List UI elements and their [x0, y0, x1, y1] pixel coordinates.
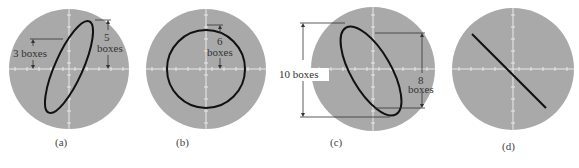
- caption-b: (b): [176, 136, 189, 149]
- lissajous-figure: 3 boxes 5 boxes (a) 6 boxes (b): [0, 0, 579, 168]
- panel-b: 6 boxes (b): [146, 9, 266, 149]
- label-boxes: boxes: [97, 42, 123, 54]
- panel-d: (d): [452, 8, 574, 153]
- caption-c: (c): [330, 136, 343, 149]
- label-boxes: boxes: [408, 83, 434, 95]
- label-10-boxes: 10 boxes: [279, 68, 318, 80]
- label-3-boxes: 3 boxes: [13, 47, 47, 59]
- caption-a: (a): [55, 136, 68, 149]
- caption-d: (d): [502, 140, 515, 153]
- panel-a: 3 boxes 5 boxes (a): [9, 9, 129, 149]
- panel-c: 10 boxes 8 boxes (c): [277, 7, 435, 149]
- label-boxes: boxes: [207, 46, 233, 58]
